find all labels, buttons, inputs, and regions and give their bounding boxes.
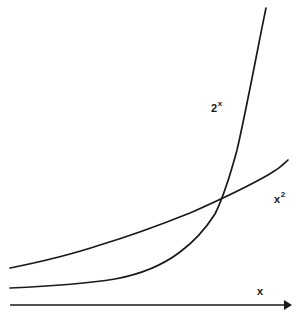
curve-label-quadratic-base: x bbox=[274, 193, 280, 205]
x-axis-arrowhead-icon bbox=[284, 300, 292, 310]
curve-label-exponential-base: 2 bbox=[211, 102, 217, 114]
curve-label-exponential: 2x bbox=[211, 99, 222, 115]
growth-comparison-figure: 2x x2 x bbox=[0, 0, 298, 321]
curve-label-quadratic: x2 bbox=[274, 190, 285, 206]
curve-two-to-the-x bbox=[10, 8, 266, 288]
plot-canvas bbox=[0, 0, 298, 321]
curve-x-squared bbox=[10, 160, 288, 268]
x-axis-label: x bbox=[257, 286, 263, 297]
curve-label-exponential-exponent: x bbox=[218, 99, 222, 108]
curve-label-quadratic-exponent: 2 bbox=[281, 190, 285, 199]
